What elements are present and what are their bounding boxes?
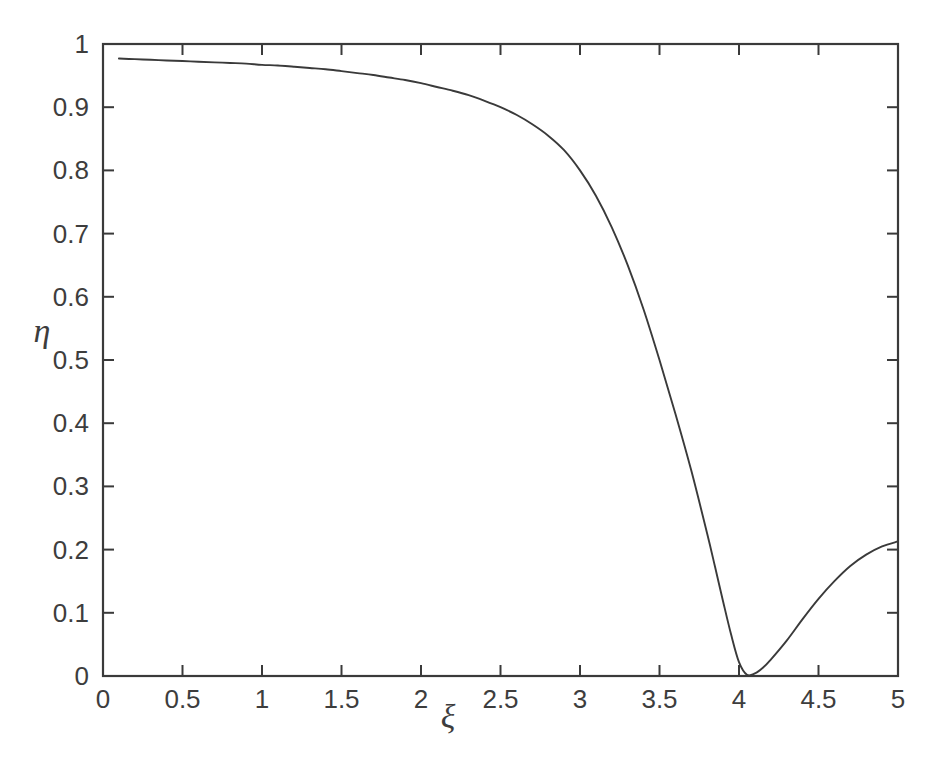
x-tick-labels-group: 00.511.522.533.544.55 <box>96 684 905 714</box>
plot-frame <box>103 44 898 676</box>
x-tick-label-5: 2.5 <box>482 684 518 714</box>
x-tick-label-10: 5 <box>891 684 905 714</box>
y-tick-labels-group: 00.10.20.30.40.50.60.70.80.91 <box>53 29 89 691</box>
y-tick-label-4: 0.4 <box>53 408 89 438</box>
x-tick-label-1: 0.5 <box>164 684 200 714</box>
x-tick-label-0: 0 <box>96 684 110 714</box>
axes-frame <box>103 44 898 676</box>
y-tick-label-9: 0.9 <box>53 92 89 122</box>
line-chart: 00.511.522.533.544.55 00.10.20.30.40.50.… <box>0 0 933 767</box>
y-tick-label-0: 0 <box>75 661 89 691</box>
x-axis-label: ξ <box>441 698 456 735</box>
y-axis-label: η <box>34 312 51 349</box>
y-tick-label-1: 0.1 <box>53 598 89 628</box>
y-tick-label-3: 0.3 <box>53 471 89 501</box>
x-tick-label-6: 3 <box>573 684 587 714</box>
y-tick-label-2: 0.2 <box>53 535 89 565</box>
x-tick-label-9: 4.5 <box>800 684 836 714</box>
data-series-eta <box>119 59 898 676</box>
x-tick-label-2: 1 <box>255 684 269 714</box>
x-tick-label-4: 2 <box>414 684 428 714</box>
figure-container: 00.511.522.533.544.55 00.10.20.30.40.50.… <box>0 0 933 767</box>
y-tick-label-7: 0.7 <box>53 219 89 249</box>
x-tick-label-3: 1.5 <box>323 684 359 714</box>
y-tick-label-10: 1 <box>75 29 89 59</box>
x-tick-label-7: 3.5 <box>641 684 677 714</box>
y-tick-label-6: 0.6 <box>53 282 89 312</box>
y-tick-label-8: 0.8 <box>53 155 89 185</box>
x-tick-label-8: 4 <box>732 684 746 714</box>
tick-marks-group <box>103 44 898 676</box>
y-tick-label-5: 0.5 <box>53 345 89 375</box>
